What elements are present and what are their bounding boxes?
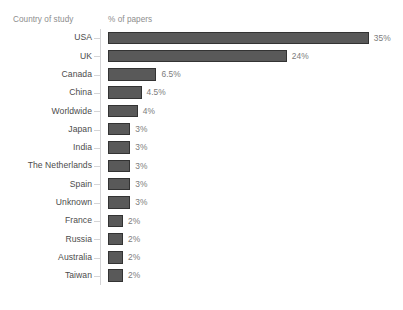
bar-value-label: 24% (292, 51, 309, 61)
column-headers: Country of study % of papers (0, 15, 403, 27)
bar-row: Taiwan2% (0, 267, 403, 285)
bar-row-label: Unknown (56, 197, 92, 207)
bar-row: UK24% (0, 47, 403, 65)
bar-value-label: 6.5% (161, 69, 180, 79)
axis-tick-mark (94, 38, 100, 39)
bar-row-label: The Netherlands (28, 160, 92, 170)
bar (108, 196, 130, 208)
axis-tick-mark (94, 221, 100, 222)
bar-row-label: Worldwide (52, 106, 92, 116)
bar-value-label: 3% (135, 124, 147, 134)
axis-tick-mark (94, 184, 100, 185)
bar-row: Australia2% (0, 249, 403, 267)
plot-area: USA35%UK24%Canada6.5%China4.5%Worldwide4… (0, 29, 403, 291)
value-column-header: % of papers (108, 15, 152, 24)
bar (108, 32, 369, 44)
bar-row: Unknown3% (0, 194, 403, 212)
bar (108, 233, 123, 245)
bar-row: Spain3% (0, 175, 403, 193)
bar-value-label: 3% (135, 161, 147, 171)
bar-row-label: UK (80, 51, 92, 61)
bar (108, 86, 142, 98)
bar-value-label: 2% (128, 234, 140, 244)
bar-value-label: 2% (128, 270, 140, 280)
axis-tick-mark (94, 148, 100, 149)
bar-row: Russia2% (0, 230, 403, 248)
axis-tick-mark (94, 56, 100, 57)
bar-row-label: Spain (70, 179, 92, 189)
cut-off-title-fragment (14, 0, 344, 5)
bar-row-label: India (73, 142, 92, 152)
bar-chart: Country of study % of papers USA35%UK24%… (0, 0, 403, 310)
axis-tick-mark (94, 203, 100, 204)
bar-row: USA35% (0, 29, 403, 47)
bar-row: India3% (0, 139, 403, 157)
axis-tick-mark (94, 258, 100, 259)
bar-row-label: Canada (62, 69, 92, 79)
axis-tick-mark (94, 93, 100, 94)
category-column-header: Country of study (13, 15, 73, 24)
bar (108, 251, 123, 263)
axis-tick-mark (94, 75, 100, 76)
axis-tick-mark (94, 130, 100, 131)
bar-row: Worldwide4% (0, 102, 403, 120)
bar-value-label: 35% (374, 33, 391, 43)
bar-row: France2% (0, 212, 403, 230)
bar-value-label: 3% (135, 179, 147, 189)
bar-row: China4.5% (0, 84, 403, 102)
bar (108, 215, 123, 227)
bar-value-label: 2% (128, 216, 140, 226)
bar (108, 269, 123, 281)
bar-value-label: 4% (143, 106, 155, 116)
bar-row: Japan3% (0, 121, 403, 139)
bar (108, 50, 287, 62)
bar (108, 178, 130, 190)
bar-row-label: Taiwan (65, 270, 92, 280)
bar-row-label: Japan (68, 124, 92, 134)
bar-row: Canada6.5% (0, 66, 403, 84)
bar-value-label: 4.5% (147, 87, 166, 97)
axis-tick-mark (94, 239, 100, 240)
bar-row-label: Russia (65, 234, 92, 244)
bar-value-label: 3% (135, 142, 147, 152)
bar (108, 160, 130, 172)
bar-row-label: USA (74, 32, 92, 42)
axis-tick-mark (94, 166, 100, 167)
bar (108, 141, 130, 153)
bar (108, 68, 156, 80)
bar-row-label: France (65, 215, 92, 225)
axis-tick-mark (94, 111, 100, 112)
axis-tick-mark (94, 276, 100, 277)
bar-row: The Netherlands3% (0, 157, 403, 175)
bar (108, 123, 130, 135)
bar-value-label: 3% (135, 197, 147, 207)
bar-row-label: China (69, 87, 92, 97)
bar (108, 105, 138, 117)
bar-value-label: 2% (128, 252, 140, 262)
bar-row-label: Australia (58, 252, 92, 262)
